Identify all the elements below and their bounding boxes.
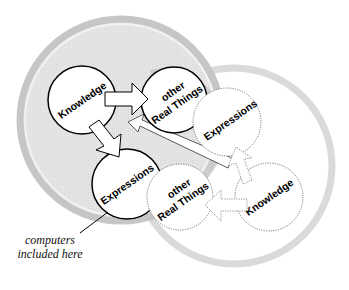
annotation-line2: included here bbox=[17, 247, 83, 261]
right-node-other-real-things: other Real Things bbox=[147, 164, 213, 230]
annotation-line1: computers bbox=[25, 233, 75, 247]
right-node-expressions: Expressions bbox=[193, 88, 261, 156]
knowledge-expressions-diagram: Knowledge other Real Things Expressions … bbox=[0, 0, 349, 290]
